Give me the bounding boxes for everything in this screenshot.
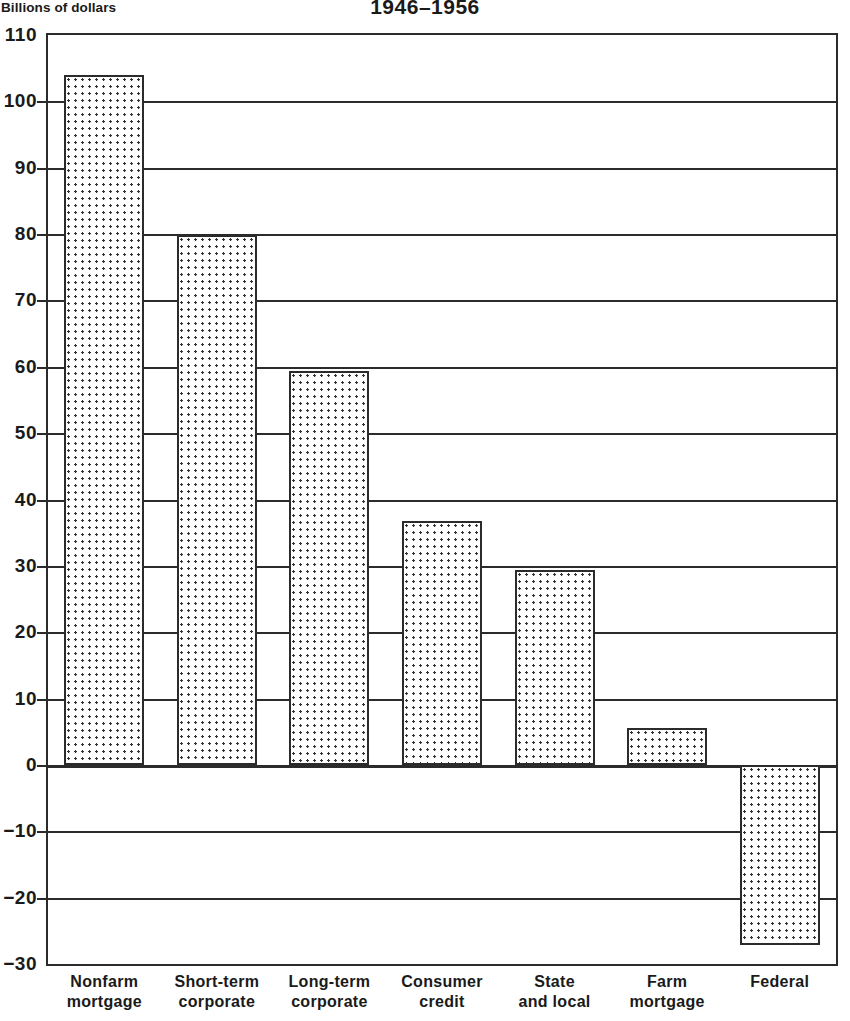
y-axis-tick-label: 20: [0, 621, 37, 643]
bar: [64, 75, 144, 765]
y-axis-tick-mark: [37, 898, 46, 900]
bar: [402, 521, 482, 765]
y-axis-tick-mark: [37, 433, 46, 435]
bar: [515, 570, 595, 765]
bar: [177, 235, 257, 765]
bar-chart: 1946–1956 Billions of dollars 1101009080…: [0, 0, 850, 1021]
y-axis-tick-label: −20: [0, 887, 37, 909]
y-axis-tick-mark: [37, 168, 46, 170]
y-axis-tick-mark: [37, 101, 46, 103]
gridline: [48, 898, 836, 900]
y-axis-tick-label: 90: [0, 157, 37, 179]
y-axis-tick-label: 100: [0, 90, 37, 112]
gridline: [48, 831, 836, 833]
gridline: [48, 300, 836, 302]
x-axis-tick-label: Nonfarm mortgage: [48, 972, 161, 1012]
y-axis-tick-mark: [37, 831, 46, 833]
y-axis-tick-label: 50: [0, 422, 37, 444]
y-axis-tick-mark: [37, 500, 46, 502]
y-axis-tick-mark: [37, 234, 46, 236]
y-axis-tick-label: 40: [0, 489, 37, 511]
y-axis-tick-label: 0: [0, 754, 37, 776]
y-axis-tick-mark: [37, 300, 46, 302]
y-axis-tick-mark: [37, 765, 46, 767]
y-axis-tick-mark: [37, 699, 46, 701]
plot-area: [46, 33, 838, 966]
gridline: [48, 168, 836, 170]
bar: [289, 371, 369, 765]
y-axis-tick-label: −10: [0, 820, 37, 842]
gridline: [48, 433, 836, 435]
y-axis-tick-label: 30: [0, 555, 37, 577]
gridline: [48, 765, 836, 768]
y-axis-tick-label: 70: [0, 289, 37, 311]
x-axis-tick-label: Farm mortgage: [611, 972, 724, 1012]
x-axis-tick-label: Federal: [723, 972, 836, 992]
y-axis-tick-label: −30: [0, 953, 37, 975]
x-axis-tick-label: Consumer credit: [386, 972, 499, 1012]
y-axis-tick-label: 10: [0, 688, 37, 710]
y-axis-tick-mark: [37, 566, 46, 568]
gridline: [48, 101, 836, 103]
y-axis-tick-mark: [37, 367, 46, 369]
gridline: [48, 367, 836, 369]
gridline: [48, 500, 836, 502]
chart-title: 1946–1956: [0, 0, 850, 19]
y-axis-label: Billions of dollars: [1, 0, 116, 15]
x-axis-tick-label: Short-term corporate: [161, 972, 274, 1012]
x-axis-tick-label: State and local: [498, 972, 611, 1012]
gridline: [48, 234, 836, 236]
y-axis-tick-label: 110: [0, 24, 37, 46]
y-axis-tick-label: 60: [0, 356, 37, 378]
y-axis-tick-label: 80: [0, 223, 37, 245]
x-axis-tick-label: Long-term corporate: [273, 972, 386, 1012]
y-axis-tick-mark: [37, 632, 46, 634]
bar: [627, 728, 707, 765]
bar: [740, 765, 820, 945]
